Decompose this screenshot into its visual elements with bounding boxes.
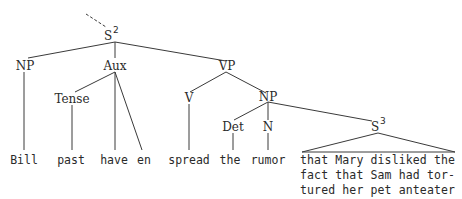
dashed-parent-edge bbox=[86, 14, 106, 27]
leaf-the: the bbox=[220, 153, 241, 167]
s3-triangle bbox=[302, 133, 455, 152]
leaf-clause-line-1: that Mary disliked the bbox=[300, 153, 455, 167]
leaf-spread: spread bbox=[168, 153, 210, 167]
edge-s2-vp bbox=[115, 42, 226, 61]
node-s3-superscript: 3 bbox=[380, 116, 386, 126]
tree-leaves: Bill past have en spread the rumor that … bbox=[10, 153, 455, 197]
node-det: Det bbox=[222, 120, 244, 134]
leaf-clause-line-3: tured her pet anteater bbox=[300, 183, 455, 197]
node-s2-superscript: 2 bbox=[113, 25, 119, 35]
leaf-clause-line-2: fact that Sam had tor- bbox=[300, 168, 455, 182]
leaf-en: en bbox=[137, 153, 151, 167]
edge-np-det bbox=[234, 102, 268, 120]
node-tense: Tense bbox=[54, 92, 89, 106]
node-s2: S bbox=[104, 29, 112, 43]
leaf-past: past bbox=[57, 153, 85, 167]
leaf-rumor: rumor bbox=[251, 153, 286, 167]
edge-aux-en bbox=[115, 72, 142, 150]
node-v: V bbox=[184, 91, 194, 105]
leaf-have: have bbox=[100, 153, 128, 167]
tree-nodes: S 2 NP Aux VP Tense V NP Det N S 3 bbox=[16, 25, 386, 134]
node-np-subject: NP bbox=[16, 59, 35, 73]
edge-np-s3 bbox=[268, 102, 372, 121]
node-np-object: NP bbox=[259, 90, 278, 104]
edge-aux-tense bbox=[75, 72, 115, 92]
node-n: N bbox=[263, 120, 274, 134]
node-aux: Aux bbox=[102, 59, 126, 73]
node-s3: S bbox=[371, 120, 379, 134]
edge-s2-np bbox=[28, 42, 115, 58]
edge-vp-v bbox=[190, 72, 226, 92]
node-vp: VP bbox=[218, 59, 236, 73]
syntax-tree-diagram: S 2 NP Aux VP Tense V NP Det N S 3 Bill … bbox=[0, 0, 462, 199]
leaf-bill: Bill bbox=[10, 153, 38, 167]
